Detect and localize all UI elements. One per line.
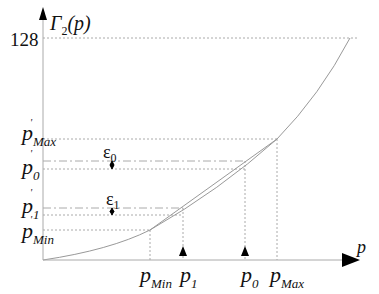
label-pmin-prime: pMin (20, 218, 54, 247)
p0-arrow-icon (241, 246, 249, 256)
y-tick-128: 128 (10, 29, 39, 50)
p1-arrow-icon (179, 246, 187, 256)
label-p0: p0 (239, 262, 259, 291)
label-eps0: ε0 (103, 142, 117, 165)
gamma-curve-diagram: Γ2(p) 128 ' pMax ' p0 ' p1 ' pMin ε0 ε1 … (0, 0, 379, 294)
label-eps1: ε1 (106, 189, 120, 212)
y-axis-title: Γ2(p) (49, 12, 91, 38)
label-p0-prime: p0 (20, 154, 40, 183)
y-labels: ' pMax ' p0 ' p1 ' pMin (20, 117, 56, 247)
label-pmax-prime: pMax (20, 120, 56, 149)
label-pmin: pMin (138, 262, 172, 291)
linear-approximation (150, 139, 277, 230)
x-labels: pMin p1 p0 pMax p (138, 237, 366, 291)
gamma-curve (43, 38, 350, 260)
error-labels: ε0 ε1 (103, 142, 120, 212)
guide-lines (43, 38, 358, 260)
y-axis-arrow-icon (39, 7, 47, 20)
label-pmax: pMax (268, 262, 304, 291)
label-p1: p1 (178, 262, 198, 291)
x-axis-title: p (355, 237, 366, 257)
